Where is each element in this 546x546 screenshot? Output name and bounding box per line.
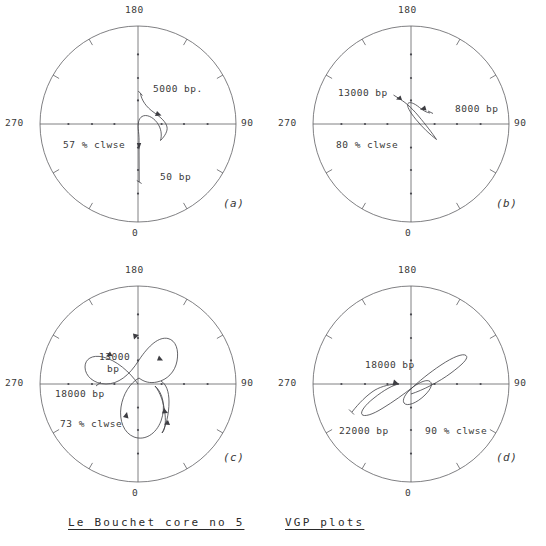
caption-plot-type: VGP plots <box>285 516 364 529</box>
axis-label-bottom: 0 <box>405 488 411 498</box>
panel-c-plot <box>0 260 273 520</box>
panel-d: 180 90 0 270 18000 bp 22000 bp 90 % clws… <box>273 260 546 520</box>
axis-label-left: 270 <box>278 118 297 128</box>
panel-d-plot <box>273 260 546 520</box>
clockwise-percent-b: 80 % clwse <box>336 140 398 150</box>
panel-a: 180 90 0 270 5000 bp. 50 bp 57 % clwse (… <box>0 0 273 260</box>
age-annotation-22000bp: 22000 bp <box>339 426 389 436</box>
clockwise-percent-d: 90 % clwse <box>425 426 487 436</box>
axis-label-bottom: 0 <box>132 228 138 238</box>
axis-label-left: 270 <box>5 378 24 388</box>
axis-label-top: 180 <box>398 5 417 15</box>
axis-label-right: 90 <box>241 378 253 388</box>
axis-label-right: 90 <box>514 378 526 388</box>
axis-label-left: 270 <box>5 118 24 128</box>
axis-label-bottom: 0 <box>132 488 138 498</box>
vgp-trajectory-b <box>394 95 437 140</box>
panel-label-a: (a) <box>223 198 244 209</box>
age-annotation-13000-unit: bp <box>107 364 119 374</box>
age-annotation-18000bp: 18000 bp <box>55 389 105 399</box>
panel-label-c: (c) <box>223 452 244 463</box>
caption-core-name: Le Bouchet core no 5 <box>68 516 244 529</box>
vgp-figure: 180 90 0 270 5000 bp. 50 bp 57 % clwse (… <box>0 0 546 546</box>
age-annotation-18000bp: 18000 bp <box>365 360 415 370</box>
panel-c: 180 90 0 270 13000 bp 18000 bp 73 % clws… <box>0 260 273 520</box>
vgp-trajectory-a <box>137 91 167 184</box>
panel-b-plot <box>273 0 546 260</box>
axis-label-right: 90 <box>241 118 253 128</box>
axis-label-bottom: 0 <box>405 228 411 238</box>
panel-a-plot <box>0 0 273 260</box>
clockwise-percent-c: 73 % clwse <box>60 419 122 429</box>
panel-label-b: (b) <box>496 198 517 209</box>
panel-b: 180 90 0 270 13000 bp 8000 bp 80 % clwse… <box>273 0 546 260</box>
axis-label-top: 180 <box>125 5 144 15</box>
axis-label-right: 90 <box>514 118 526 128</box>
axis-label-left: 270 <box>278 378 297 388</box>
age-annotation-5000bp: 5000 bp. <box>153 84 203 94</box>
age-annotation-8000bp: 8000 bp <box>455 104 499 114</box>
age-annotation-13000bp: 13000 bp <box>338 88 388 98</box>
age-annotation-13000: 13000 <box>99 352 130 362</box>
panel-label-d: (d) <box>496 452 517 463</box>
axis-label-top: 180 <box>125 265 144 275</box>
clockwise-percent-a: 57 % clwse <box>63 140 125 150</box>
age-annotation-50bp: 50 bp <box>160 172 191 182</box>
axis-label-top: 180 <box>398 265 417 275</box>
